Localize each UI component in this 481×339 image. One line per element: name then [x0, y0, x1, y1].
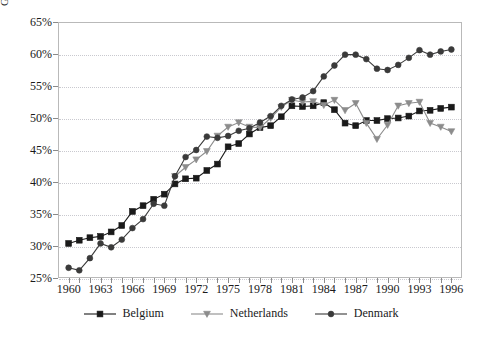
- legend-label: Netherlands: [230, 306, 288, 321]
- data-point-marker: [342, 108, 349, 114]
- x-tick-mark: [154, 278, 155, 283]
- data-point-marker: [204, 134, 210, 140]
- x-tick-mark: [79, 278, 80, 283]
- data-point-marker: [235, 120, 242, 126]
- data-point-marker: [438, 49, 444, 55]
- data-point-marker: [183, 154, 189, 160]
- x-axis-tick-labels: 1960196319661969197219751978198119841987…: [0, 282, 481, 302]
- series-layer: [58, 22, 462, 278]
- data-point-marker: [374, 136, 381, 142]
- data-point-marker: [374, 66, 380, 72]
- legend-marker-triangle-icon: [190, 308, 224, 320]
- x-tick-mark: [292, 278, 293, 283]
- data-point-marker: [342, 120, 348, 126]
- y-tick-label: 60%: [30, 47, 52, 62]
- data-point-marker: [215, 135, 221, 141]
- data-point-marker: [183, 176, 189, 182]
- x-tick-mark: [217, 278, 218, 283]
- data-point-marker: [427, 107, 433, 113]
- y-tick-label: 45%: [30, 143, 52, 158]
- data-point-marker: [321, 74, 327, 80]
- data-point-marker: [98, 234, 104, 240]
- data-point-marker: [395, 103, 402, 109]
- legend-label: Belgium: [123, 306, 164, 321]
- x-tick-mark: [143, 278, 144, 283]
- x-tick-mark: [419, 278, 420, 283]
- x-tick-mark: [164, 278, 165, 283]
- y-tick-label: 55%: [30, 79, 52, 94]
- data-point-marker: [352, 101, 359, 107]
- data-point-marker: [289, 97, 295, 103]
- x-tick-mark: [196, 278, 197, 283]
- data-point-marker: [278, 114, 284, 120]
- data-point-marker: [300, 95, 306, 101]
- data-point-marker: [204, 168, 210, 174]
- data-point-marker: [257, 120, 263, 126]
- chart-container: General Gov't Revenues/GDP 25%30%35%40%4…: [0, 0, 481, 339]
- data-point-marker: [332, 107, 338, 113]
- y-tick-label: 50%: [30, 111, 52, 126]
- legend-item-denmark[interactable]: Denmark: [314, 306, 399, 321]
- data-point-marker: [236, 141, 242, 147]
- data-point-marker: [130, 209, 136, 215]
- data-point-marker: [385, 67, 391, 73]
- data-point-marker: [76, 237, 82, 243]
- data-point-marker: [98, 241, 104, 247]
- data-point-marker: [76, 267, 82, 273]
- x-tick-mark: [334, 278, 335, 283]
- data-point-marker: [236, 128, 242, 134]
- data-point-marker: [437, 124, 444, 130]
- legend-marker-circle-icon: [314, 308, 348, 320]
- data-point-marker: [438, 106, 444, 112]
- data-point-marker: [172, 173, 178, 179]
- x-tick-mark: [175, 278, 176, 283]
- data-point-marker: [353, 52, 359, 58]
- data-point-marker: [363, 56, 369, 62]
- series-denmark: [66, 47, 455, 274]
- chart-legend: BelgiumNetherlandsDenmark: [0, 306, 481, 321]
- x-tick-label: 1960: [57, 282, 81, 297]
- y-tick-mark: [53, 182, 58, 183]
- x-tick-mark: [313, 278, 314, 283]
- data-point-marker: [97, 311, 103, 317]
- legend-item-belgium[interactable]: Belgium: [83, 306, 164, 321]
- x-tick-mark: [271, 278, 272, 283]
- data-point-marker: [87, 235, 93, 241]
- legend-marker-square-icon: [83, 308, 117, 320]
- x-tick-mark: [441, 278, 442, 283]
- series-netherlands: [172, 97, 455, 179]
- x-tick-mark: [281, 278, 282, 283]
- data-point-marker: [448, 129, 455, 135]
- data-point-marker: [161, 203, 167, 209]
- data-point-marker: [395, 115, 401, 121]
- data-point-marker: [151, 201, 157, 207]
- data-point-marker: [119, 237, 125, 243]
- data-point-marker: [406, 55, 412, 61]
- legend-label: Denmark: [354, 306, 399, 321]
- x-tick-label: 1978: [248, 282, 272, 297]
- x-tick-mark: [451, 278, 452, 283]
- x-tick-mark: [207, 278, 208, 283]
- data-point-marker: [310, 88, 316, 94]
- data-point-marker: [193, 157, 200, 163]
- x-tick-mark: [101, 278, 102, 283]
- y-tick-label: 65%: [30, 15, 52, 30]
- data-point-marker: [108, 229, 114, 235]
- data-point-marker: [374, 118, 380, 124]
- x-tick-mark: [303, 278, 304, 283]
- x-tick-mark: [398, 278, 399, 283]
- data-point-marker: [108, 244, 114, 250]
- x-tick-label: 1993: [407, 282, 431, 297]
- data-point-marker: [417, 108, 423, 114]
- y-tick-mark: [53, 54, 58, 55]
- data-point-marker: [328, 311, 334, 317]
- x-tick-mark: [377, 278, 378, 283]
- x-tick-mark: [430, 278, 431, 283]
- x-tick-mark: [260, 278, 261, 283]
- x-tick-mark: [239, 278, 240, 283]
- data-point-marker: [225, 133, 231, 139]
- data-point-marker: [140, 216, 146, 222]
- data-point-marker: [87, 255, 93, 261]
- legend-item-netherlands[interactable]: Netherlands: [190, 306, 288, 321]
- data-point-marker: [246, 125, 252, 131]
